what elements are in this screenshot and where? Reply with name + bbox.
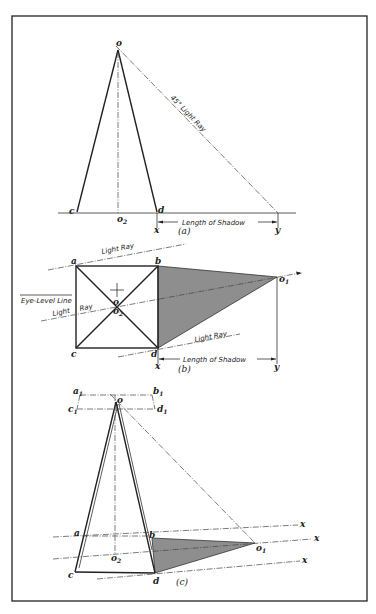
top-edge-b1d1 — [152, 395, 155, 409]
top-edge-a1c1 — [77, 395, 80, 409]
eye-level-label: Eye-Level Line — [21, 297, 72, 305]
label-o1: o1 — [279, 274, 289, 285]
light-ray-arrowhead — [296, 272, 302, 276]
label-o2: o2 — [111, 553, 121, 564]
length-of-shadow-label: Length of Shadow — [182, 219, 245, 227]
label-d1: d1 — [157, 404, 167, 415]
light-ray-45-label: 45° Light Ray — [169, 94, 208, 134]
caption-c: (c) — [176, 577, 189, 587]
label-c: c — [68, 570, 74, 580]
arrowhead-right — [271, 358, 276, 361]
label-o: o — [117, 395, 123, 405]
panel-c: a1 b1 c1 d1 o a b c d o1 o2 x x x (c) — [53, 386, 320, 587]
label-x1: x — [299, 519, 306, 529]
label-b: b — [149, 530, 155, 540]
pyramid-edge-left — [77, 50, 118, 212]
label-y: y — [274, 225, 281, 235]
label-d: d — [158, 205, 165, 215]
panel-a: Length of Shadow o c o2 d x y (a) 45° Li… — [58, 38, 296, 236]
panel-b: Eye-Level Line Light Ray Light Ray Light… — [20, 242, 302, 374]
label-d: d — [153, 576, 160, 586]
label-b: b — [155, 256, 161, 266]
light-ray-mid-label-1: Light — [52, 307, 71, 318]
label-x: x — [153, 225, 160, 235]
arrowhead-left — [158, 221, 163, 224]
pyramid-edge-left-outer — [75, 402, 116, 572]
light-ray-45 — [116, 46, 278, 213]
pyramid-edge-right-outer — [116, 402, 155, 573]
label-x: x — [154, 361, 161, 371]
label-x2: x — [313, 533, 320, 543]
label-a: a — [74, 528, 80, 538]
shadow-construction-diagram: Length of Shadow o c o2 d x y (a) 45° Li… — [0, 0, 376, 614]
shadow-area — [152, 538, 255, 573]
label-d: d — [151, 349, 158, 359]
base-edge-cd — [75, 572, 155, 573]
light-ray-top-label: Light Ray — [101, 242, 136, 256]
label-c: c — [69, 206, 75, 216]
pyramid-edge-left-inner — [79, 404, 118, 568]
label-c: c — [71, 349, 77, 359]
label-a: a — [71, 256, 77, 266]
label-c1: c1 — [68, 404, 78, 415]
reference-line-3 — [97, 561, 300, 579]
caption-b: (b) — [178, 364, 191, 374]
label-b1: b1 — [153, 386, 163, 397]
label-y: y — [273, 362, 280, 372]
label-a1: a1 — [73, 386, 83, 397]
arrowhead-right — [272, 221, 277, 224]
label-x3: x — [301, 555, 308, 565]
light-ray-bottom-label: Light Ray — [194, 330, 229, 344]
label-o2: o2 — [113, 306, 123, 317]
pyramid-edge-right — [118, 50, 157, 212]
length-of-shadow-label: Length of Shadow — [183, 356, 246, 364]
label-o: o — [116, 38, 122, 48]
pyramid-edge-right-inner — [119, 404, 152, 550]
label-o1: o1 — [256, 543, 266, 554]
label-o2: o2 — [117, 214, 127, 225]
reference-line-1 — [53, 525, 298, 537]
caption-a: (a) — [178, 226, 191, 236]
